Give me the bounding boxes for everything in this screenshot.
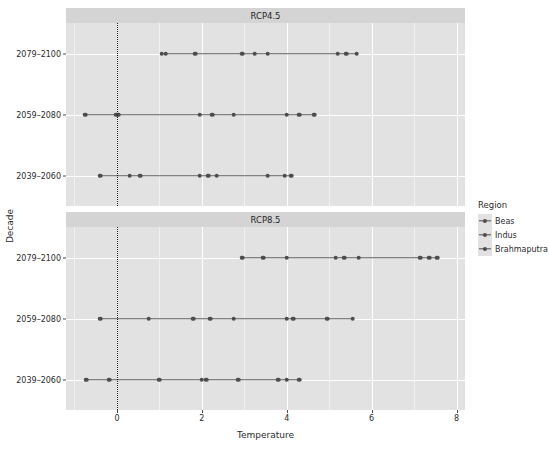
y-tick-label: 2059–2080 bbox=[16, 110, 61, 119]
data-point bbox=[276, 377, 281, 382]
y-tick-label: 2079–2100 bbox=[16, 253, 61, 262]
x-tick-mark bbox=[117, 410, 118, 413]
data-point bbox=[83, 112, 88, 117]
legend-item[interactable]: Indus bbox=[478, 228, 548, 242]
data-point bbox=[297, 112, 302, 117]
x-tick-label: 4 bbox=[284, 414, 289, 423]
y-tick-label: 2039–2060 bbox=[16, 171, 61, 180]
chart-figure: Decade RCP4.52079–21002059–20802039–2060… bbox=[0, 0, 549, 452]
data-point bbox=[231, 112, 236, 117]
data-point bbox=[435, 255, 440, 260]
data-point bbox=[193, 51, 198, 56]
data-point bbox=[289, 173, 294, 178]
data-point bbox=[427, 255, 432, 260]
data-point bbox=[191, 316, 196, 321]
legend-item-label: Beas bbox=[495, 217, 514, 226]
y-tick-mark bbox=[63, 257, 66, 258]
data-point bbox=[253, 51, 258, 56]
data-point bbox=[240, 51, 245, 56]
data-point bbox=[210, 112, 215, 117]
data-point bbox=[197, 173, 202, 178]
data-point bbox=[231, 316, 236, 321]
data-point bbox=[284, 377, 289, 382]
data-point bbox=[325, 316, 330, 321]
data-point bbox=[418, 255, 423, 260]
x-axis-title: Temperature bbox=[66, 430, 465, 440]
facet-panels: RCP4.52079–21002059–20802039–2060RCP8.52… bbox=[66, 8, 465, 410]
data-point bbox=[342, 255, 347, 260]
x-axis: 02468 bbox=[66, 410, 465, 428]
legend-key-icon bbox=[478, 242, 492, 256]
legend-key-icon bbox=[478, 214, 492, 228]
data-point bbox=[197, 112, 202, 117]
series-connector-line bbox=[242, 257, 437, 258]
data-point bbox=[333, 255, 338, 260]
legend-item-label: Indus bbox=[495, 231, 517, 240]
zero-reference-line bbox=[117, 227, 118, 410]
x-tick-mark bbox=[287, 410, 288, 413]
y-tick-label: 2079–2100 bbox=[16, 49, 61, 58]
data-point bbox=[98, 173, 103, 178]
data-point bbox=[138, 173, 143, 178]
y-axis-title-text: Decade bbox=[5, 209, 15, 243]
series-connector-line bbox=[86, 379, 300, 380]
data-point bbox=[357, 255, 362, 260]
data-point bbox=[297, 377, 302, 382]
x-tick-mark bbox=[202, 410, 203, 413]
legend-title: Region bbox=[478, 200, 548, 210]
data-point bbox=[236, 377, 241, 382]
data-point bbox=[291, 316, 296, 321]
y-tick-mark bbox=[63, 379, 66, 380]
data-point bbox=[98, 316, 103, 321]
legend: Region BeasIndusBrahmaputra bbox=[478, 200, 548, 256]
data-point bbox=[282, 173, 287, 178]
x-tick-mark bbox=[457, 410, 458, 413]
data-point bbox=[146, 316, 151, 321]
x-tick-label: 6 bbox=[369, 414, 374, 423]
legend-item[interactable]: Brahmaputra bbox=[478, 242, 548, 256]
series-connector-line bbox=[162, 53, 357, 54]
y-tick-mark bbox=[63, 175, 66, 176]
plot-area: 2079–21002059–20802039–2060 bbox=[66, 227, 465, 410]
x-tick-label: 0 bbox=[114, 414, 119, 423]
data-point bbox=[214, 173, 219, 178]
data-point bbox=[312, 112, 317, 117]
y-tick-mark bbox=[63, 318, 66, 319]
y-axis-title: Decade bbox=[2, 0, 18, 452]
data-point bbox=[265, 173, 270, 178]
y-tick-label: 2059–2080 bbox=[16, 314, 61, 323]
data-point bbox=[354, 51, 359, 56]
legend-item-label: Brahmaputra bbox=[495, 245, 548, 254]
zero-reference-line bbox=[117, 23, 118, 206]
data-point bbox=[350, 316, 355, 321]
data-point bbox=[265, 51, 270, 56]
data-point bbox=[204, 377, 209, 382]
data-point bbox=[261, 255, 266, 260]
facet-strip-label: RCP4.5 bbox=[66, 8, 465, 23]
legend-key-icon bbox=[478, 228, 492, 242]
data-point bbox=[127, 173, 132, 178]
facet-panel: RCP8.52079–21002059–20802039–2060 bbox=[66, 212, 465, 410]
data-point bbox=[157, 377, 162, 382]
data-point bbox=[335, 51, 340, 56]
y-tick-mark bbox=[63, 53, 66, 54]
data-point bbox=[208, 316, 213, 321]
legend-item[interactable]: Beas bbox=[478, 214, 548, 228]
data-point bbox=[240, 255, 245, 260]
data-point bbox=[163, 51, 168, 56]
x-tick-label: 2 bbox=[199, 414, 204, 423]
data-point bbox=[284, 255, 289, 260]
y-tick-mark bbox=[63, 114, 66, 115]
facet-strip-label: RCP8.5 bbox=[66, 212, 465, 227]
series-connector-line bbox=[100, 318, 353, 319]
y-tick-label: 2039–2060 bbox=[16, 375, 61, 384]
data-point bbox=[107, 377, 112, 382]
x-tick-label: 8 bbox=[454, 414, 459, 423]
data-point bbox=[206, 173, 211, 178]
data-point bbox=[344, 51, 349, 56]
facet-panel: RCP4.52079–21002059–20802039–2060 bbox=[66, 8, 465, 206]
x-tick-mark bbox=[372, 410, 373, 413]
legend-items: BeasIndusBrahmaputra bbox=[478, 214, 548, 256]
data-point bbox=[84, 377, 89, 382]
plot-area: 2079–21002059–20802039–2060 bbox=[66, 23, 465, 206]
